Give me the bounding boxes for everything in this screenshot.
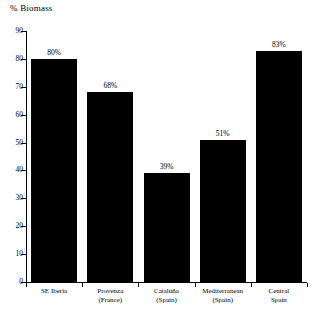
- bar[interactable]: [200, 140, 246, 282]
- plot-area: 0102030405060708090 80%68%39%51%83%: [26, 31, 307, 283]
- bar-value-label: 39%: [137, 162, 197, 171]
- y-tick-label: 50: [16, 138, 24, 147]
- y-tick-label: 0: [19, 277, 23, 286]
- category-label-line1: Cataluña: [154, 287, 179, 295]
- bar-value-label: 68%: [80, 81, 140, 90]
- x-axis-line: [26, 282, 307, 283]
- y-tick-label: 30: [16, 193, 24, 202]
- chart-title: % Biomass: [10, 3, 53, 13]
- bar-value-label: 80%: [24, 48, 84, 57]
- category-label-line1: Central: [269, 287, 290, 295]
- bar[interactable]: [144, 173, 190, 282]
- bar-chart-figure: % Biomass 0102030405060708090 80%68%39%5…: [0, 0, 313, 317]
- category-label-line1: SE Iberia: [41, 287, 67, 295]
- bar[interactable]: [87, 92, 133, 282]
- bar-value-label: 83%: [249, 40, 309, 49]
- y-axis-line: [26, 31, 27, 283]
- y-tick-label: 40: [16, 165, 24, 174]
- y-tick-label: 20: [16, 221, 24, 230]
- y-tick-label: 90: [16, 26, 24, 35]
- bar-value-label: 51%: [193, 129, 253, 138]
- y-tick-label: 10: [16, 249, 24, 258]
- y-tick-label: 80: [16, 54, 24, 63]
- bar[interactable]: [256, 51, 302, 282]
- y-tick-label: 60: [16, 110, 24, 119]
- category-label-line2: Spain: [237, 296, 313, 305]
- y-tick-label: 70: [16, 82, 24, 91]
- category-label: CentralSpain: [237, 287, 313, 305]
- category-label-line1: Provenza: [97, 287, 123, 295]
- bar[interactable]: [31, 59, 77, 282]
